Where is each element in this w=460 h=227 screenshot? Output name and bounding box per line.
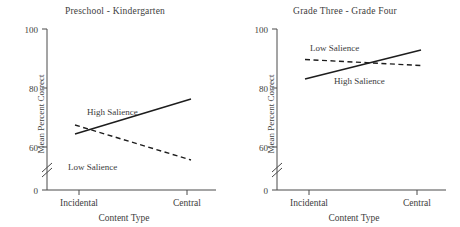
x-tick-label-incidental: Incidental bbox=[290, 198, 328, 208]
y-tick-label-0: 0 bbox=[34, 186, 39, 196]
x-tick-label-central: Central bbox=[403, 198, 431, 208]
series-line-high-salience bbox=[305, 50, 421, 79]
series-annotation-low-salience: Low Salience bbox=[68, 162, 117, 172]
series-annotation-high-salience: High Salience bbox=[334, 76, 385, 86]
series-annotation-low-salience: Low Salience bbox=[310, 43, 359, 53]
panel-grade-three-grade-four: Grade Three - Grade Four Mean Percent Co… bbox=[230, 0, 460, 227]
plot-area: 100 80 60 0 Incidental Central Low Salie… bbox=[230, 0, 460, 227]
y-tick-label-0: 0 bbox=[264, 186, 269, 196]
x-tick-label-central: Central bbox=[173, 198, 201, 208]
series-annotation-high-salience: High Salience bbox=[87, 107, 138, 117]
y-tick-label-60: 60 bbox=[259, 143, 269, 153]
series-line-low-salience bbox=[75, 125, 191, 160]
y-tick-label-80: 80 bbox=[259, 84, 269, 94]
y-tick-label-80: 80 bbox=[29, 84, 39, 94]
y-tick-label-60: 60 bbox=[29, 143, 39, 153]
plot-area: 100 80 60 0 Incidental Central High Sali… bbox=[0, 0, 230, 227]
x-tick-label-incidental: Incidental bbox=[60, 198, 98, 208]
panel-preschool-kindergarten: Preschool - Kindergarten Mean Percent Co… bbox=[0, 0, 230, 227]
figure-two-panel-line-chart: Preschool - Kindergarten Mean Percent Co… bbox=[0, 0, 460, 227]
y-tick-label-100: 100 bbox=[255, 25, 269, 35]
y-tick-label-100: 100 bbox=[25, 25, 39, 35]
